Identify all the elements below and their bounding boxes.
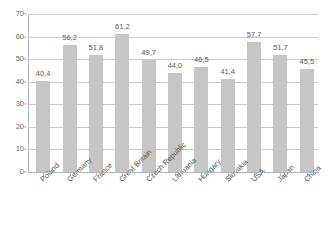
bar[interactable] — [89, 55, 103, 172]
bar-value-label: 45,5 — [300, 58, 315, 66]
y-axis-tick-label: 60 — [2, 33, 24, 41]
y-axis-tick-mark — [24, 172, 27, 173]
bar[interactable] — [194, 67, 208, 172]
y-axis-tick-label: 70 — [2, 10, 24, 18]
x-axis-line — [28, 172, 319, 173]
y-axis-tick-label: 30 — [2, 101, 24, 109]
bar-value-label: 51,8 — [89, 44, 104, 52]
bar-value-label: 46,5 — [194, 56, 209, 64]
y-axis-tick-mark — [24, 14, 27, 15]
y-axis-tick-mark — [24, 81, 27, 82]
y-axis-tick-label: 0 — [2, 168, 24, 176]
bar[interactable] — [115, 34, 129, 172]
bar-value-label: 44,0 — [168, 62, 183, 70]
bar[interactable] — [36, 81, 50, 172]
bar-value-label: 49,7 — [141, 49, 156, 57]
y-axis-tick-mark — [24, 126, 27, 127]
y-axis-tick-mark — [24, 36, 27, 37]
y-axis-tick-mark — [24, 149, 27, 150]
bar-value-label: 56,2 — [62, 34, 77, 42]
bar[interactable] — [63, 45, 77, 172]
bar-value-label: 40,4 — [36, 70, 51, 78]
y-axis-ticks: 010203040506070 — [0, 14, 24, 172]
y-axis-tick-label: 20 — [2, 123, 24, 131]
bar[interactable] — [221, 79, 235, 172]
bar[interactable] — [247, 42, 261, 172]
bar-chart: 010203040506070 40,456,251,861,249,744,0… — [0, 0, 332, 233]
bar-value-label: 51,7 — [273, 44, 288, 52]
bar[interactable] — [273, 55, 287, 172]
bar[interactable] — [300, 69, 314, 172]
grid-line — [28, 14, 318, 15]
y-axis-tick-label: 10 — [2, 146, 24, 154]
y-axis-tick-label: 50 — [2, 55, 24, 63]
bar-value-label: 57,7 — [247, 31, 262, 39]
y-axis-tick-mark — [24, 104, 27, 105]
y-axis-tick-mark — [24, 59, 27, 60]
bar-value-label: 41,4 — [220, 68, 235, 76]
y-axis-tick-label: 40 — [2, 78, 24, 86]
bar-value-label: 61,2 — [115, 23, 130, 31]
